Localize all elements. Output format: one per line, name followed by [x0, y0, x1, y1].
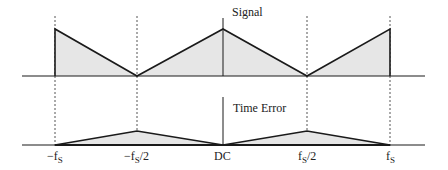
label-fs: fS: [386, 149, 395, 165]
signal-lobe-center: [137, 29, 307, 76]
time-error-panel: Time Error: [22, 97, 425, 145]
signal-panel: Signal: [22, 5, 425, 76]
label-neg-half-fs: −fS/2: [124, 149, 149, 165]
time-error-title: Time Error: [233, 101, 286, 115]
frequency-labels: −fS −fS/2 DC fS/2 fS: [47, 149, 395, 165]
label-half-fs: fS/2: [298, 149, 316, 165]
label-neg-fs: −fS: [47, 149, 63, 165]
error-lobe-left: [55, 131, 223, 145]
label-dc: DC: [214, 149, 231, 163]
error-lobe-right: [223, 131, 390, 145]
signal-title: Signal: [232, 5, 263, 19]
spectrum-diagram: Signal Time Error −fS −fS/2 DC fS/2 fS: [0, 0, 448, 170]
